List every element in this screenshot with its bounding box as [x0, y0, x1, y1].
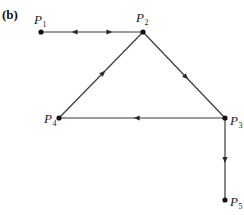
node-subscript-p1: 1 [42, 20, 46, 29]
node-subscript-p2: 2 [144, 18, 148, 27]
arrowhead-p3-p4 [134, 115, 140, 120]
node-p3 [222, 115, 227, 120]
node-subscript-p5: 5 [238, 202, 242, 211]
node-label-p5: P5 [229, 194, 242, 211]
node-p5 [222, 197, 227, 202]
arrowhead-p2-forward [106, 29, 112, 34]
node-label-p1: P1 [33, 12, 46, 29]
directed-graph: (b) P1P2P3P4P5 [0, 0, 244, 215]
node-p2 [140, 29, 145, 34]
arrowhead-p3-p5 [222, 157, 227, 163]
node-label-p3: P3 [229, 113, 242, 130]
node-subscript-p3: 3 [238, 121, 242, 130]
arrowhead-p1-back [72, 29, 78, 34]
edge-p4-p2 [59, 32, 143, 118]
node-p4 [56, 115, 61, 120]
node-subscript-p4: 4 [52, 119, 56, 128]
node-p1 [38, 29, 43, 34]
node-label-p4: P4 [43, 111, 56, 128]
node-label-p2: P2 [135, 10, 148, 27]
panel-label: (b) [2, 7, 18, 22]
